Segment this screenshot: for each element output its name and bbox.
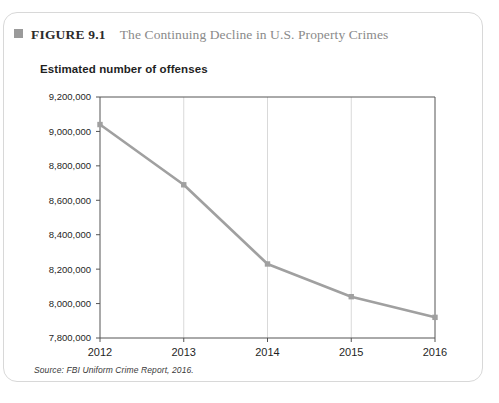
y-tick-label: 8,200,000	[49, 264, 91, 275]
y-tick-label: 8,600,000	[49, 195, 91, 206]
data-point-marker	[349, 294, 354, 299]
y-tick-label: 9,000,000	[49, 126, 91, 137]
chart-plot-area: 7,800,0008,000,0008,200,0008,400,0008,60…	[4, 13, 484, 383]
figure-card: FIGURE 9.1 The Continuing Decline in U.S…	[3, 12, 483, 382]
x-tick-group: 20122013201420152016	[88, 338, 447, 358]
gridlines-group	[184, 97, 352, 338]
y-tick-label: 8,800,000	[49, 160, 91, 171]
x-tick-label: 2016	[423, 346, 447, 358]
data-point-marker	[265, 261, 270, 266]
y-tick-label: 8,400,000	[49, 229, 91, 240]
x-tick-label: 2013	[172, 346, 196, 358]
source-note: Source: FBI Uniform Crime Report, 2016.	[34, 365, 194, 375]
data-point-marker	[432, 315, 437, 320]
data-point-marker	[97, 122, 102, 127]
y-tick-label: 8,000,000	[49, 298, 91, 309]
x-tick-label: 2014	[255, 346, 279, 358]
x-tick-label: 2012	[88, 346, 112, 358]
y-tick-group: 7,800,0008,000,0008,200,0008,400,0008,60…	[49, 91, 100, 343]
y-tick-label: 9,200,000	[49, 91, 91, 102]
data-point-marker	[181, 182, 186, 187]
line-chart-svg: 7,800,0008,000,0008,200,0008,400,0008,60…	[4, 13, 484, 383]
y-tick-label: 7,800,000	[49, 332, 91, 343]
x-tick-label: 2015	[339, 346, 363, 358]
